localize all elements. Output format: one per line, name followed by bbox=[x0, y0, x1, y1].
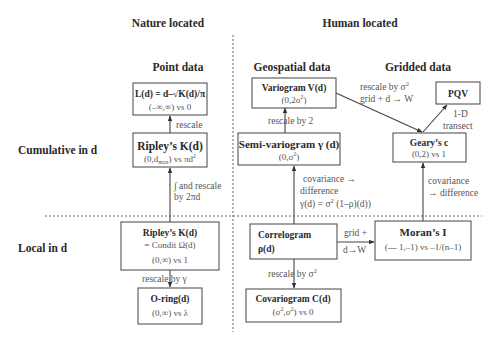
edge-label-rescale-sigma: rescale by σ2 bbox=[268, 267, 317, 279]
svg-text:(0,2) vs 1: (0,2) vs 1 bbox=[412, 149, 446, 159]
svg-text:ρ(d): ρ(d) bbox=[258, 244, 275, 255]
node-variogram: Variogram V(d) (0,2σ2) bbox=[252, 78, 336, 108]
edge-label-rescale-by-2: rescale by 2 bbox=[268, 116, 314, 126]
node-pqv: PQV bbox=[436, 82, 480, 104]
svg-text:(0,∞) vs 1: (0,∞) vs 1 bbox=[152, 255, 188, 265]
svg-text:Ripley’s K(d): Ripley’s K(d) bbox=[143, 228, 197, 239]
edge-label-integrate-1: ∫ and rescale bbox=[173, 181, 221, 192]
svg-text:= Condit Ω(d): = Condit Ω(d) bbox=[144, 240, 195, 250]
svg-text:Moran’s I: Moran’s I bbox=[400, 226, 447, 238]
edge-label-rescale: rescale bbox=[176, 120, 202, 130]
header-nature-located: Nature located bbox=[132, 17, 205, 29]
edge-label-grid-plus: grid + bbox=[344, 228, 367, 238]
svg-text:Ripley’s K(d): Ripley’s K(d) bbox=[137, 140, 203, 153]
edge-label-grid-d-w: grid + d → W bbox=[360, 94, 413, 104]
row-label-local: Local in d bbox=[18, 242, 68, 254]
svg-text:(— 1,–1) vs –1/(n–1): (— 1,–1) vs –1/(n–1) bbox=[385, 242, 462, 252]
node-correlogram: Correlogram ρ(d) bbox=[250, 224, 337, 259]
diagram-canvas: Nature located Human located Point data … bbox=[0, 0, 496, 341]
node-ripley-k-local: Ripley’s K(d) = Condit Ω(d) (0,∞) vs 1 bbox=[121, 222, 219, 270]
edge-label-cov-diff-1: covariance → bbox=[303, 174, 356, 184]
header-point-data: Point data bbox=[153, 61, 204, 73]
edge-label-d-to-w: d→W bbox=[343, 245, 366, 255]
edge-label-to-difference: → difference bbox=[428, 188, 478, 198]
node-ripley-k-cumulative: Ripley’s K(d) (0,dmax) vs πd2 bbox=[133, 133, 207, 167]
svg-text:(–∞,∞) vs 0: (–∞,∞) vs 0 bbox=[149, 102, 192, 112]
svg-text:Variogram V(d): Variogram V(d) bbox=[262, 83, 327, 94]
edge-label-cov-diff-2: difference bbox=[300, 186, 338, 196]
svg-text:Geary’s c: Geary’s c bbox=[410, 138, 448, 148]
svg-text:Correlogram: Correlogram bbox=[258, 230, 311, 240]
node-semi-variogram: Semi-variogram γ (d) (0,σ2) bbox=[238, 133, 340, 165]
svg-text:Covariogram C(d): Covariogram C(d) bbox=[255, 294, 330, 305]
svg-text:(0,∞) vs λ: (0,∞) vs λ bbox=[152, 308, 189, 318]
edge-label-integrate-2: by 2πd bbox=[174, 192, 200, 202]
node-o-ring: O-ring(d) (0,∞) vs λ bbox=[138, 288, 202, 324]
node-morans-i: Moran’s I (— 1,–1) vs –1/(n–1) bbox=[375, 221, 471, 260]
svg-text:Semi-variogram γ (d): Semi-variogram γ (d) bbox=[239, 138, 340, 151]
edge-label-rescale-sigma2: rescale by σ2 bbox=[360, 80, 409, 92]
header-human-located: Human located bbox=[322, 17, 398, 29]
edge-label-covariance: covariance bbox=[428, 176, 469, 186]
header-geospatial-data: Geospatial data bbox=[254, 61, 331, 74]
node-gearys-c: Geary’s c (0,2) vs 1 bbox=[393, 133, 466, 162]
svg-text:(σ2,σ2) vs 0: (σ2,σ2) vs 0 bbox=[273, 306, 314, 317]
svg-text:(0,2σ2): (0,2σ2) bbox=[281, 94, 306, 105]
edge-label-1d: 1-D bbox=[453, 109, 468, 119]
header-gridded-data: Gridded data bbox=[385, 61, 451, 73]
svg-text:O-ring(d): O-ring(d) bbox=[150, 294, 189, 305]
node-l-function: L(d) = d–√K(d)/π (–∞,∞) vs 0 bbox=[133, 83, 207, 115]
svg-text:(0,σ2): (0,σ2) bbox=[279, 151, 300, 162]
svg-text:L(d) = d–√K(d)/π: L(d) = d–√K(d)/π bbox=[135, 89, 206, 100]
svg-text:PQV: PQV bbox=[448, 89, 468, 99]
node-covariogram: Covariogram C(d) (σ2,σ2) vs 0 bbox=[246, 289, 341, 322]
svg-text:(0,dmax) vs πd2: (0,dmax) vs πd2 bbox=[144, 153, 196, 165]
row-label-cumulative: Cumulative in d bbox=[18, 144, 98, 156]
edge-label-transect: transect bbox=[443, 121, 473, 131]
edge-label-gamma-formula: γ(d) = σ2 (1–ρ)(d)) bbox=[299, 197, 371, 210]
edge-label-rescale-gamma: rescale by γ bbox=[142, 274, 187, 284]
